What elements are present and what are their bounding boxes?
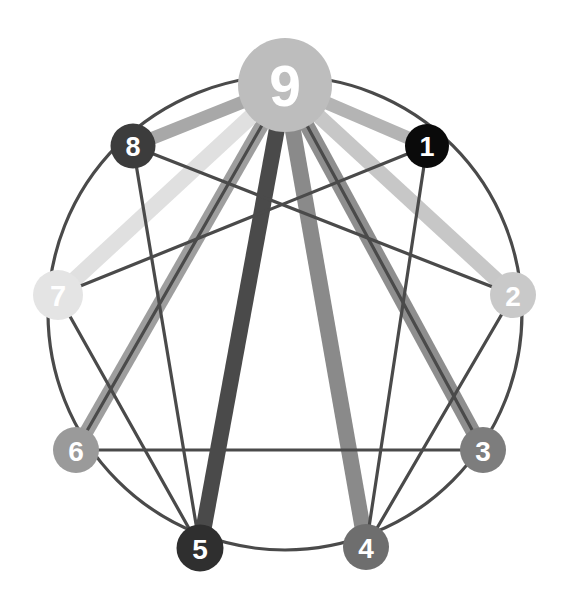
thin-edge-1-4 hexad [366, 146, 427, 547]
enneagram-canvas: 123456789 [0, 0, 569, 611]
node-circle-1[interactable] [405, 124, 449, 168]
node-circle-2[interactable] [490, 272, 536, 318]
enneagram-node-7[interactable]: 7 [33, 270, 83, 320]
enneagram-node-1[interactable]: 1 [405, 124, 449, 168]
enneagram-node-3[interactable]: 3 [460, 427, 506, 473]
node-circle-5[interactable] [177, 525, 224, 572]
node-circle-8[interactable] [111, 124, 156, 169]
node-layer: 123456789 [33, 38, 536, 572]
node-circle-7[interactable] [33, 270, 83, 320]
node-circle-3[interactable] [460, 427, 506, 473]
enneagram-node-5[interactable]: 5 [177, 525, 224, 572]
enneagram-diagram: 123456789 [0, 0, 569, 611]
enneagram-node-4[interactable]: 4 [343, 524, 389, 570]
enneagram-node-8[interactable]: 8 [111, 124, 156, 169]
enneagram-node-2[interactable]: 2 [490, 272, 536, 318]
thin-edge-4-2 hexad [366, 295, 513, 547]
enneagram-node-9[interactable]: 9 [238, 38, 332, 132]
node-circle-4[interactable] [343, 524, 389, 570]
node-circle-6[interactable] [53, 427, 99, 473]
node-circle-9[interactable] [238, 38, 332, 132]
enneagram-node-6[interactable]: 6 [53, 427, 99, 473]
